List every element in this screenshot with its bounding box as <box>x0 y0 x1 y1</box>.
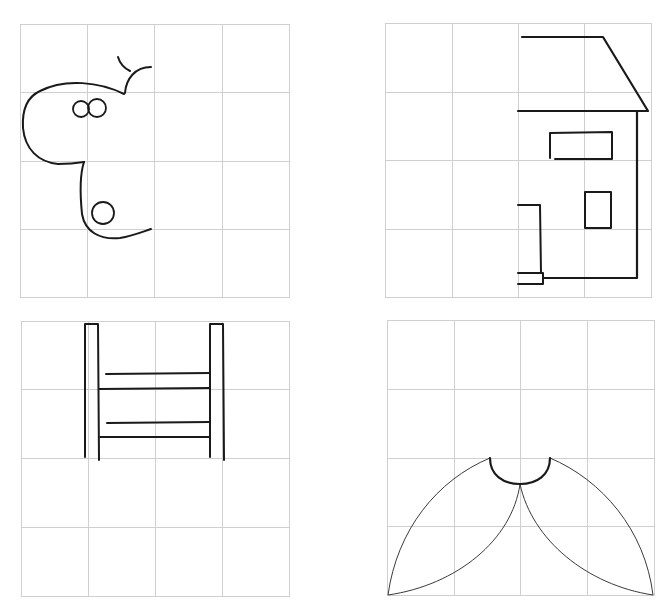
house-drawing <box>385 23 652 299</box>
grid <box>385 23 652 298</box>
upper-wing-stroke <box>23 83 124 164</box>
lower-window <box>585 192 611 228</box>
right-rail <box>210 324 224 460</box>
rung-lower-top <box>107 422 210 423</box>
panel-bottom-right <box>387 320 655 597</box>
grid <box>20 24 290 298</box>
upper-window <box>550 132 612 159</box>
left-rail <box>85 324 99 460</box>
wall-stroke <box>544 111 637 278</box>
door-stroke <box>518 205 541 273</box>
roof-stroke <box>518 37 648 111</box>
ladder-drawing <box>21 321 290 598</box>
panel-top-right <box>385 23 652 299</box>
spot-circle <box>73 101 89 117</box>
spot-circle <box>92 202 114 224</box>
rung-upper-top <box>106 373 210 374</box>
butterfly-drawing <box>20 24 290 299</box>
grid <box>387 320 655 596</box>
step-stroke <box>518 273 543 284</box>
rung-upper-bottom <box>99 388 210 389</box>
antenna-stroke <box>118 57 130 71</box>
lower-wing-stroke <box>81 162 151 238</box>
panel-bottom-left <box>21 321 290 598</box>
panel-top-left <box>20 24 290 299</box>
grid <box>21 321 290 597</box>
spot-circle <box>88 99 106 117</box>
petals-drawing <box>387 320 655 597</box>
